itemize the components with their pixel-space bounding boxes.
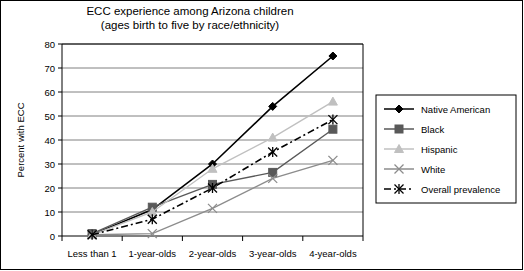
asterisk-marker xyxy=(148,214,157,224)
x-category-labels-group: Less than 11-year-olds2-year-olds3-year-… xyxy=(68,248,357,259)
legend-label: Hispanic xyxy=(421,144,458,155)
series-line xyxy=(88,97,338,238)
x-tick-marks-group xyxy=(62,236,363,241)
y-axis-label-group: Percent with ECC xyxy=(15,102,26,177)
y-tick-label: 50 xyxy=(44,111,55,122)
triangle-marker xyxy=(328,97,337,105)
chart-title: ECC experience among Arizona children (a… xyxy=(0,4,380,32)
x-category-label: 3-year-olds xyxy=(249,248,297,259)
x-category-label: 4-year-olds xyxy=(309,248,357,259)
chart-canvas: 01020304050607080 Less than 11-year-olds… xyxy=(0,0,524,271)
y-tick-label: 30 xyxy=(44,159,55,170)
legend-label: Overall prevalence xyxy=(421,184,500,195)
asterisk-marker xyxy=(328,115,337,125)
square-marker xyxy=(395,125,403,133)
legend-label: Native American xyxy=(421,104,490,115)
y-tick-label: 20 xyxy=(44,183,55,194)
series-line xyxy=(88,52,337,239)
y-tick-label: 80 xyxy=(44,39,55,50)
square-marker xyxy=(329,125,337,133)
x-category-label: 1-year-olds xyxy=(129,248,177,259)
legend-label: White xyxy=(421,164,445,175)
y-tick-label: 60 xyxy=(44,87,55,98)
y-tick-label: 40 xyxy=(44,135,55,146)
y-tick-labels-group: 01020304050607080 xyxy=(44,39,62,242)
x-category-label: 2-year-olds xyxy=(189,248,237,259)
legend-label: Black xyxy=(421,124,444,135)
triangle-marker xyxy=(268,133,277,141)
y-tick-label: 0 xyxy=(50,231,55,242)
legend-group: Native AmericanBlackHispanicWhiteOverall… xyxy=(376,95,516,203)
chart-title-line-1: ECC experience among Arizona children xyxy=(0,4,380,18)
y-axis-title: Percent with ECC xyxy=(15,102,26,177)
y-tick-label: 10 xyxy=(44,207,55,218)
x-category-label: Less than 1 xyxy=(68,248,117,259)
y-tick-label: 70 xyxy=(44,63,55,74)
chart-figure: ECC experience among Arizona children (a… xyxy=(0,0,524,271)
asterisk-marker xyxy=(268,147,277,157)
chart-title-line-2: (ages birth to five by race/ethnicity) xyxy=(0,18,380,32)
